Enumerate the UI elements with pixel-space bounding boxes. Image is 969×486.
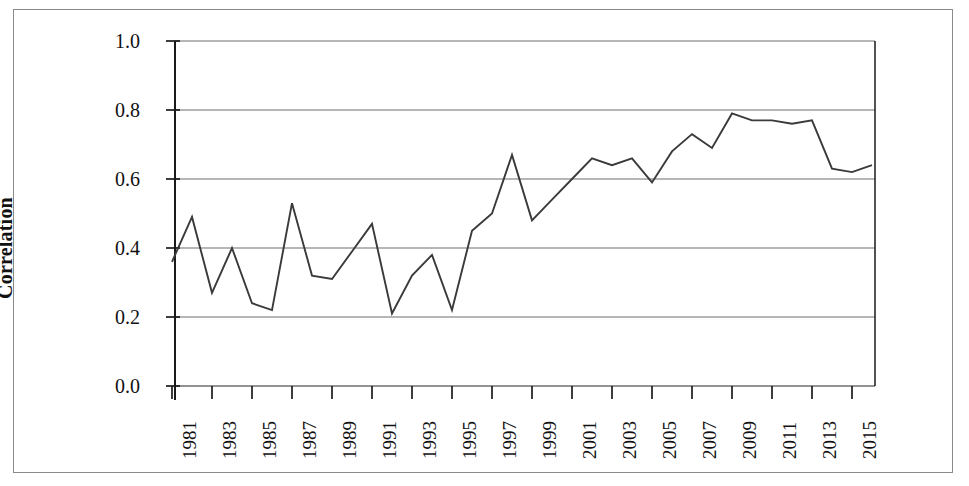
x-tick-label-2007: 2007 [700,421,719,459]
x-tick-label-1987: 1987 [300,421,319,459]
y-tick-label-3: 0.6 [84,169,140,189]
figure-border [13,9,953,473]
x-tick-label-1989: 1989 [340,421,359,459]
x-tick-label-2003: 2003 [620,421,639,459]
y-tick-label-1: 0.2 [84,307,140,327]
x-tick-label-1999: 1999 [540,421,559,459]
figure-container: Correlation 0.0 0.2 0.4 0.6 0.8 1.0 1981… [0,0,969,486]
x-tick-label-2011: 2011 [780,422,799,459]
y-axis-title: Correlation [0,148,17,348]
x-tick-label-2005: 2005 [660,421,679,459]
y-tick-label-5: 1.0 [84,31,140,51]
x-tick-label-1985: 1985 [260,421,279,459]
x-tick-label-2001: 2001 [580,421,599,459]
x-tick-label-1981: 1981 [180,421,199,459]
x-tick-label-1991: 1991 [380,421,399,459]
x-tick-label-1993: 1993 [420,421,439,459]
x-tick-label-1983: 1983 [220,421,239,459]
x-tick-label-1997: 1997 [500,421,519,459]
y-tick-label-0: 0.0 [84,376,140,396]
x-tick-label-2013: 2013 [820,421,839,459]
x-tick-label-2009: 2009 [740,421,759,459]
x-tick-label-1995: 1995 [460,421,479,459]
y-tick-label-4: 0.8 [84,100,140,120]
x-tick-label-2015: 2015 [860,421,879,459]
y-tick-label-2: 0.4 [84,238,140,258]
